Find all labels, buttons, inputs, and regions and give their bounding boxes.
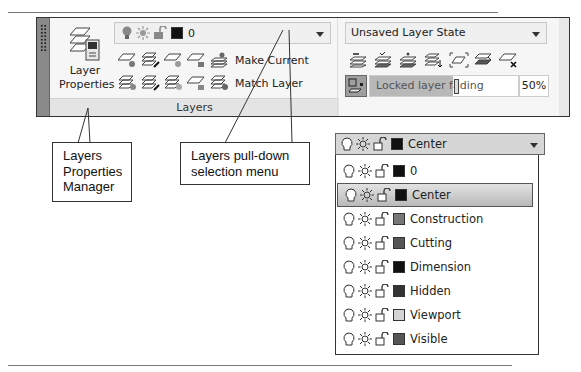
panel-title[interactable]: Layers — [50, 98, 339, 116]
sun-icon — [360, 188, 374, 202]
lightbulb-icon — [343, 236, 355, 251]
layer-color-swatch — [393, 165, 405, 177]
unlock-icon — [377, 188, 391, 202]
layer-color-swatch — [171, 27, 183, 39]
layers-ribbon-panel: Layer Properties 0 Make Current Match La… — [36, 17, 570, 117]
callout-line: Properties — [63, 164, 121, 180]
match-layer-icon[interactable] — [209, 74, 231, 92]
layer-color-swatch — [393, 285, 405, 297]
layer-lock-icon[interactable] — [186, 51, 208, 69]
layer-state-icons — [341, 137, 387, 152]
change-to-current-icon[interactable] — [422, 51, 446, 69]
lightbulb-icon — [343, 212, 355, 227]
top-rule — [8, 12, 498, 13]
layer-unlock-icon[interactable] — [186, 74, 208, 92]
layer-list-item[interactable]: Cutting — [336, 231, 538, 255]
layer-properties-label: Layer — [59, 64, 111, 78]
make-current-button[interactable]: Make Current — [235, 54, 309, 67]
callout-line: selection menu — [191, 164, 299, 180]
layer-freeze-icon[interactable] — [163, 51, 185, 69]
sun-icon — [358, 164, 372, 178]
locked-layer-fading-toggle[interactable] — [345, 75, 367, 97]
layer-name: 0 — [410, 164, 417, 178]
callout-layers-properties-manager: Layers Properties Manager — [52, 142, 132, 202]
sun-icon — [358, 332, 372, 346]
callout-line: Layers pull-down — [191, 148, 299, 164]
make-current-icon[interactable] — [209, 51, 231, 69]
layer-dropdown-expanded-header[interactable]: Center — [335, 133, 545, 155]
sun-icon — [358, 212, 372, 226]
layer-unisolate-icon[interactable] — [140, 74, 162, 92]
layer-state-icons — [343, 260, 389, 275]
layer-dropdown[interactable]: 0 — [114, 22, 331, 44]
layer-name: Center — [412, 188, 451, 202]
lightbulb-icon — [343, 308, 355, 323]
unlock-icon — [375, 260, 389, 274]
lightbulb-icon — [343, 260, 355, 275]
layer-state-icons — [343, 284, 389, 299]
layer-name: Dimension — [410, 260, 471, 274]
layer-name: Viewport — [410, 308, 461, 322]
locked-layer-fading-control: Locked layer fading 50% — [345, 75, 549, 97]
layer-state-icons — [121, 26, 167, 40]
layer-state-icons — [343, 236, 389, 251]
layer-on-icon[interactable] — [117, 74, 139, 92]
sun-icon — [356, 137, 370, 151]
panel-gripper[interactable] — [37, 18, 50, 116]
layer-walk-frame-icon[interactable] — [447, 51, 471, 69]
layer-delete-icon[interactable] — [497, 51, 521, 69]
dropdown-arrow-icon[interactable] — [530, 143, 538, 148]
match-layer-button[interactable]: Match Layer — [235, 77, 303, 90]
layer-state-icons — [343, 164, 389, 179]
layer-name: Construction — [410, 212, 483, 226]
unlock-icon — [375, 284, 389, 298]
callout-layers-pulldown: Layers pull-down selection menu — [180, 142, 310, 185]
layer-thaw-icon[interactable] — [163, 74, 185, 92]
layer-walk-icon[interactable] — [372, 51, 396, 69]
panel-right-edge — [559, 18, 569, 116]
lightbulb-icon — [341, 137, 353, 152]
sun-thaw-icon — [136, 26, 150, 40]
lightbulb-icon — [343, 164, 355, 179]
layer-list-item[interactable]: Dimension — [336, 255, 538, 279]
fading-label: Locked layer fading — [376, 76, 484, 96]
unlock-icon — [375, 164, 389, 178]
layer-color-swatch — [391, 138, 403, 150]
layer-properties-button[interactable]: Layer Properties — [59, 22, 111, 106]
layer-list-item[interactable]: Visible — [336, 327, 538, 351]
copy-objects-icon[interactable] — [472, 51, 496, 69]
fading-percent[interactable]: 50% — [519, 75, 549, 97]
layer-off-icon[interactable] — [117, 51, 139, 69]
layer-name: Visible — [410, 332, 448, 346]
layer-color-swatch — [395, 189, 407, 201]
sun-icon — [358, 236, 372, 250]
panel-separator — [337, 18, 338, 116]
fading-slider[interactable]: Locked layer fading — [369, 75, 519, 97]
layer-dropdown-list: 0 Center Construction Cutting — [335, 155, 539, 355]
callout-line: Layers — [63, 148, 121, 164]
layer-isolate-icon[interactable] — [140, 51, 162, 69]
dropdown-arrow-icon[interactable] — [316, 32, 324, 37]
dropdown-arrow-icon[interactable] — [532, 32, 540, 37]
layer-merge-icon[interactable] — [397, 51, 421, 69]
layer-state-value: Unsaved Layer State — [351, 26, 466, 39]
layer-color-swatch — [393, 309, 405, 321]
layer-list-item[interactable]: 0 — [336, 159, 538, 183]
unlock-icon — [375, 212, 389, 226]
unlock-icon — [373, 137, 387, 151]
layer-state-icons — [345, 188, 391, 203]
layer-list-item[interactable]: Hidden — [336, 279, 538, 303]
locked-fade-icon — [348, 78, 364, 94]
fading-slider-thumb[interactable] — [454, 79, 459, 94]
layer-properties-label-2: Properties — [59, 78, 111, 92]
layer-tools-row-2: Match Layer — [117, 74, 303, 92]
unlock-icon — [375, 236, 389, 250]
layer-state-dropdown[interactable]: Unsaved Layer State — [345, 22, 547, 44]
layer-previous-icon[interactable] — [347, 51, 371, 69]
layer-state-tools — [347, 51, 522, 69]
layer-list-item-selected[interactable]: Center — [337, 183, 533, 207]
layer-list-item[interactable]: Viewport — [336, 303, 538, 327]
current-layer-name: 0 — [188, 27, 195, 40]
layer-color-swatch — [393, 237, 405, 249]
layer-list-item[interactable]: Construction — [336, 207, 538, 231]
